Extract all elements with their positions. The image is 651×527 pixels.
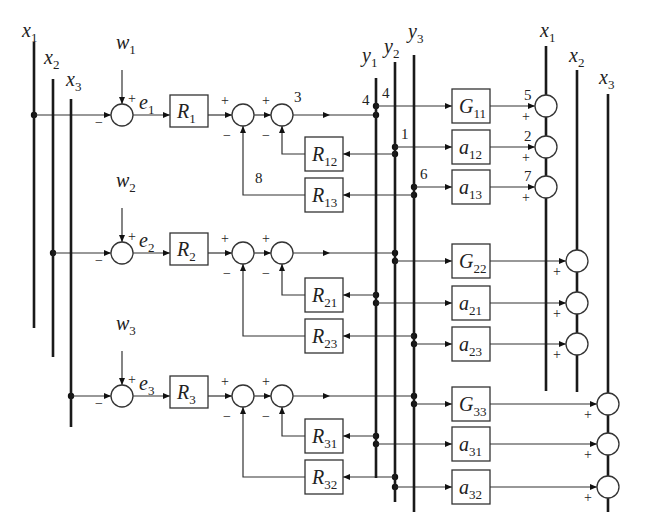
label-main: a [459,333,469,355]
label-main: a [459,292,469,314]
plus-sign: + [522,109,530,124]
diagram-svg: x1x2x3y1y2y3x1x2x3−w1+e1R1++−−34R12R138−… [0,0,651,527]
blocks-layer [111,89,619,504]
plus-sign: + [553,306,561,321]
arrow-right-icon [445,184,452,190]
minus-sign: − [262,409,270,424]
label-subscript: 3 [608,77,615,92]
label-subscript: 2 [129,180,136,195]
minus-sign: − [95,396,103,411]
label-subscript: 2 [53,57,60,72]
decoupling-sum-2 [271,104,293,126]
error-label: e3 [139,372,154,398]
label-main: a [459,476,469,498]
bus-label-x3-right: x3 [598,66,614,92]
arrow-right-icon [323,112,330,118]
node-label: 4 [362,92,370,108]
label-subscript: 22 [473,261,486,276]
arrow-right-icon [445,341,452,347]
label-subscript: 32 [469,487,482,502]
arrow-right-icon [264,112,271,118]
arrow-right-icon [445,300,452,306]
label-subscript: 32 [324,477,337,492]
label-subscript: 2 [393,46,400,61]
output-summing-junction [597,433,619,455]
plus-sign: + [522,190,530,205]
arrow-right-icon [445,484,452,490]
arrow-right-icon [445,258,452,264]
minus-sign: − [223,128,231,143]
label-main: y [406,20,417,43]
label-subscript: 31 [324,436,337,451]
signal-line [282,126,305,154]
signal-line [282,264,305,295]
node-label: 2 [524,128,532,144]
arrow-up-icon [240,126,246,133]
label-subscript: 1 [189,111,196,126]
output-summing-junction [535,136,557,158]
node-label: 3 [294,89,302,105]
plus-sign: + [221,374,229,389]
arrow-right-icon [445,401,452,407]
label-subscript: 2 [189,249,196,264]
plus-sign: + [221,231,229,246]
arrow-down-icon [119,235,125,242]
arrow-right-icon [323,393,330,399]
bus-label-x3-left: x3 [65,68,81,94]
arrow-up-icon [240,407,246,414]
label-subscript: 21 [324,295,337,310]
plus-sign: + [522,150,530,165]
output-summing-junction [597,393,619,415]
arrow-left-icon [343,292,350,298]
label-subscript: 21 [469,303,482,318]
arrow-left-icon [343,474,350,480]
minus-sign: − [95,253,103,268]
label-main: e [139,229,148,251]
arrow-up-icon [279,264,285,271]
bus-label-y1: y1 [360,44,377,70]
arrow-right-icon [104,393,111,399]
arrow-left-icon [343,433,350,439]
decoupling-sum-2 [271,385,293,407]
node-label: 7 [524,168,532,184]
label-main: a [459,136,469,158]
minus-sign: − [262,128,270,143]
label-main: R [311,466,324,488]
plus-sign: + [128,229,136,244]
arrow-right-icon [163,250,170,256]
label-main: w [116,312,130,334]
label-main: e [139,372,148,394]
minus-sign: − [95,115,103,130]
output-summing-junction [597,476,619,498]
minus-sign: − [223,266,231,281]
label-subscript: 3 [148,383,155,398]
label-main: G [459,95,474,117]
signal-line [243,407,305,477]
label-main: G [459,393,474,415]
label-main: x [21,19,31,41]
label-subscript: 31 [469,444,482,459]
label-main: x [598,66,608,88]
arrow-right-icon [445,144,452,150]
label-main: R [176,381,189,403]
label-subscript: 11 [473,106,486,121]
arrow-right-icon [104,112,111,118]
arrow-right-icon [104,250,111,256]
error-summing-junction [111,104,133,126]
error-label: e2 [139,229,154,255]
output-summing-junction [566,250,588,272]
label-subscript: 3 [129,323,136,338]
label-main: a [459,433,469,455]
label-main: R [176,100,189,122]
plus-sign: + [262,93,270,108]
label-subscript: 23 [469,344,482,359]
label-subscript: 3 [417,31,424,46]
disturbance-label: w1 [116,31,136,57]
arrow-right-icon [323,250,330,256]
label-subscript: 2 [148,240,155,255]
label-main: R [311,143,324,165]
label-main: y [360,44,371,67]
plus-sign: + [128,372,136,387]
plus-sign: + [553,347,561,362]
label-subscript: 13 [469,187,482,202]
